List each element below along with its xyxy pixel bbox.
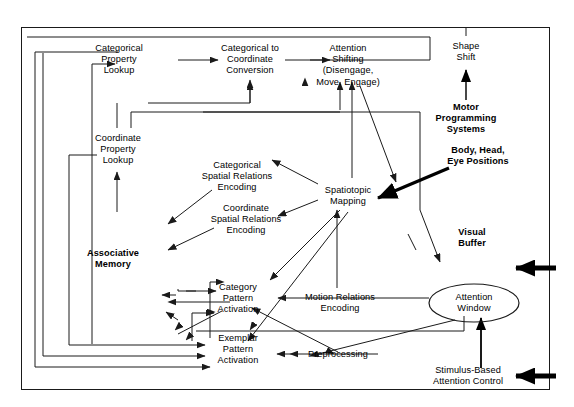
node-categorical-property-lookup[interactable]: Categorical Property Lookup (79, 43, 159, 77)
node-shape-shift[interactable]: Shape Shift (436, 41, 496, 63)
node-motion-relations-encoding[interactable]: Motion Relations Encoding (284, 292, 396, 314)
node-categorical-to-coordinate-conversion[interactable]: Categorical to Coordinate Conversion (207, 43, 293, 77)
node-preprocessing[interactable]: Preprocessing (296, 349, 380, 360)
node-attention-window[interactable]: Attention Window (440, 292, 508, 314)
node-category-pattern-activation[interactable]: Category Pattern Activation (198, 282, 278, 316)
node-associative-memory[interactable]: Associative Memory (65, 248, 161, 270)
node-motor-programming-systems[interactable]: Motor Programming Systems (420, 102, 512, 136)
node-stimulus-based-attention-control[interactable]: Stimulus-Based Attention Control (414, 365, 522, 387)
node-attention-shifting[interactable]: Attention Shifting (Disengage, Move, Eng… (302, 43, 394, 88)
short-tick (408, 234, 416, 250)
feedback-line-second-left (43, 53, 205, 356)
node-categorical-spatial-relations-encoding[interactable]: Categorical Spatial Relations Encoding (187, 160, 287, 194)
diagram-canvas: Categorical Property Lookup Categorical … (0, 0, 574, 407)
feedback-routing-lines (35, 52, 210, 367)
loop-to-categorical-lookup (92, 64, 115, 344)
node-spatiotopic-mapping[interactable]: Spatiotopic Mapping (311, 185, 385, 207)
feedback-line-outer-left (35, 52, 210, 367)
path-join-attn (300, 108, 340, 112)
node-coordinate-spatial-relations-encoding[interactable]: Coordinate Spatial Relations Encoding (196, 203, 296, 237)
node-exemplar-pattern-activation[interactable]: Exemplar Pattern Activation (198, 333, 278, 367)
line-coordinate-to-right (131, 112, 420, 130)
arrow-attention-shifting-to-spatiotopic (360, 86, 396, 182)
arrow-exemplar-to-assoc (166, 312, 178, 320)
node-coordinate-property-lookup[interactable]: Coordinate Property Lookup (78, 133, 158, 167)
arrow-body-head-eye-to-spatiotopic (378, 168, 449, 198)
node-body-head-eye-positions[interactable]: Body, Head, Eye Positions (432, 145, 524, 167)
node-visual-buffer[interactable]: Visual Buffer (442, 227, 502, 249)
line-to-ctcc-from-below (148, 80, 250, 103)
line-attn-window-long-left (190, 315, 462, 332)
arrow-spatiotopic-partial (332, 215, 345, 270)
